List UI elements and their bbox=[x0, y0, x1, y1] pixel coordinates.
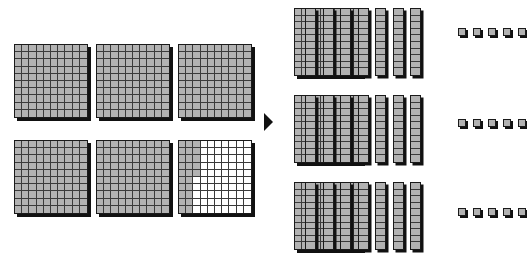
rod-cell bbox=[324, 236, 333, 243]
rod-cell bbox=[359, 68, 368, 75]
rod-cell bbox=[394, 29, 403, 36]
flat-cell bbox=[295, 209, 302, 216]
rod-cell bbox=[359, 236, 368, 243]
rod-cell bbox=[376, 96, 385, 103]
flat-cell bbox=[295, 155, 302, 162]
rod-cell bbox=[324, 142, 333, 149]
rod-cell bbox=[341, 155, 350, 162]
rod-cell bbox=[376, 155, 385, 162]
rod-cell bbox=[376, 223, 385, 230]
rod-cell bbox=[394, 35, 403, 42]
unit-cube bbox=[473, 28, 481, 36]
rod-cell bbox=[411, 35, 420, 42]
rod-cell bbox=[394, 62, 403, 69]
rod-cell bbox=[306, 55, 315, 62]
unit-cube bbox=[518, 28, 526, 36]
rod-cell bbox=[341, 129, 350, 136]
unit-cube bbox=[488, 208, 496, 216]
rod-cell bbox=[394, 155, 403, 162]
rod-cell bbox=[359, 142, 368, 149]
rod-cell bbox=[306, 183, 315, 190]
group-row bbox=[0, 0, 527, 86]
rod-cell bbox=[306, 196, 315, 203]
rod-cell bbox=[306, 22, 315, 29]
rod-cell bbox=[376, 209, 385, 216]
rod-cell bbox=[394, 196, 403, 203]
rod-cell bbox=[394, 109, 403, 116]
ten-rod bbox=[410, 182, 421, 250]
ten-rod bbox=[323, 8, 334, 76]
flat-cell bbox=[295, 42, 302, 49]
rod-cell bbox=[376, 136, 385, 143]
unit-cube bbox=[518, 208, 526, 216]
rod-cell bbox=[341, 196, 350, 203]
rod-cell bbox=[394, 149, 403, 156]
unit-cube bbox=[458, 28, 466, 36]
rod-cell bbox=[359, 109, 368, 116]
flat-cell bbox=[295, 49, 302, 56]
rod-cell bbox=[359, 183, 368, 190]
rod-cell bbox=[411, 42, 420, 49]
rod-cell bbox=[376, 196, 385, 203]
rod-cell bbox=[411, 236, 420, 243]
unit-cube bbox=[488, 119, 496, 127]
rod-cell bbox=[394, 190, 403, 197]
rod-cell bbox=[394, 209, 403, 216]
ten-rod bbox=[323, 182, 334, 250]
flat-cell bbox=[295, 190, 302, 197]
rod-cell bbox=[324, 203, 333, 210]
ten-rod bbox=[305, 8, 316, 76]
rod-cell bbox=[359, 223, 368, 230]
rod-cell bbox=[411, 68, 420, 75]
flat-cell bbox=[295, 242, 302, 249]
ten-rod bbox=[358, 8, 369, 76]
unit-cube bbox=[458, 119, 466, 127]
rod-cell bbox=[359, 216, 368, 223]
rod-cell bbox=[324, 29, 333, 36]
rod-cell bbox=[394, 183, 403, 190]
rod-cell bbox=[306, 142, 315, 149]
rod-cell bbox=[376, 49, 385, 56]
rod-cell bbox=[394, 122, 403, 129]
rod-cell bbox=[376, 29, 385, 36]
rod-cell bbox=[411, 223, 420, 230]
rod-cell bbox=[376, 116, 385, 123]
rod-cell bbox=[394, 103, 403, 110]
rod-cell bbox=[341, 149, 350, 156]
rod-cell bbox=[341, 62, 350, 69]
rod-cell bbox=[376, 122, 385, 129]
rod-cell bbox=[394, 42, 403, 49]
rod-cell bbox=[324, 9, 333, 16]
rod-cell bbox=[411, 196, 420, 203]
ten-rod bbox=[393, 182, 404, 250]
flat-cell bbox=[295, 203, 302, 210]
rod-cell bbox=[341, 16, 350, 23]
ten-rod bbox=[375, 95, 386, 163]
rod-cell bbox=[376, 149, 385, 156]
unit-cube bbox=[488, 28, 496, 36]
rod-cell bbox=[376, 236, 385, 243]
rod-cell bbox=[324, 129, 333, 136]
rod-cell bbox=[411, 22, 420, 29]
rod-cell bbox=[376, 109, 385, 116]
rod-cell bbox=[341, 22, 350, 29]
rod-cell bbox=[341, 103, 350, 110]
rod-cell bbox=[341, 183, 350, 190]
rod-cell bbox=[411, 136, 420, 143]
rod-cell bbox=[341, 9, 350, 16]
flat-cell bbox=[295, 136, 302, 143]
flat-cell bbox=[295, 55, 302, 62]
rod-cell bbox=[324, 183, 333, 190]
rod-cell bbox=[341, 122, 350, 129]
rod-cell bbox=[394, 203, 403, 210]
flat-cell bbox=[295, 229, 302, 236]
rod-cell bbox=[324, 196, 333, 203]
rod-cell bbox=[359, 242, 368, 249]
rod-cell bbox=[359, 116, 368, 123]
rod-cell bbox=[324, 68, 333, 75]
rod-cell bbox=[394, 49, 403, 56]
rod-cell bbox=[324, 229, 333, 236]
rod-cell bbox=[341, 190, 350, 197]
flat-cell bbox=[295, 103, 302, 110]
rod-cell bbox=[394, 55, 403, 62]
